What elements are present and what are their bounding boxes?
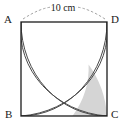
shaded-region-group bbox=[73, 65, 108, 116]
figure-canvas bbox=[0, 0, 126, 133]
dimension-label: 10 cm bbox=[0, 2, 126, 14]
geometry-figure: 10 cm A D B C bbox=[0, 0, 126, 133]
vertex-label-a: A bbox=[4, 14, 12, 25]
vertex-label-d: D bbox=[111, 14, 119, 25]
vertex-label-b: B bbox=[5, 109, 12, 120]
shaded-region bbox=[73, 65, 108, 116]
vertex-label-c: C bbox=[111, 109, 118, 120]
